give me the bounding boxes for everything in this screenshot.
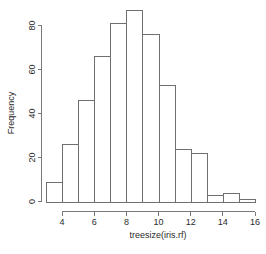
- histogram-bar: [207, 195, 223, 202]
- histogram-bar: [239, 200, 255, 202]
- x-tick-label: 4: [60, 217, 65, 227]
- histogram-plot: 0 20 40 60 80 Frequency 46810121416 tree…: [0, 0, 266, 254]
- x-tick-label: 14: [218, 217, 228, 227]
- x-axis-title: treesize(iris.rf): [129, 230, 186, 240]
- y-tick-label-80: 80: [27, 20, 37, 30]
- histogram-bar: [127, 11, 143, 202]
- x-tick-label: 16: [250, 217, 260, 227]
- histogram-bars: [47, 11, 256, 202]
- x-tick-label: 6: [92, 217, 97, 227]
- x-tick-label: 10: [153, 217, 163, 227]
- y-tick-label-40: 40: [27, 108, 37, 118]
- x-tick-label: 8: [124, 217, 129, 227]
- x-tick-label: 12: [186, 217, 196, 227]
- histogram-bar: [159, 85, 175, 202]
- histogram-bar: [223, 193, 239, 202]
- histogram-bar: [63, 145, 79, 202]
- histogram-bar: [143, 35, 159, 202]
- y-axis-title: Frequency: [6, 91, 16, 134]
- histogram-bar: [111, 24, 127, 202]
- x-axis-ticks: [62, 212, 255, 216]
- histogram-bar: [47, 182, 63, 202]
- histogram-svg: 0 20 40 60 80 Frequency 46810121416 tree…: [0, 0, 266, 254]
- histogram-bar: [191, 154, 207, 202]
- histogram-bar: [79, 101, 95, 202]
- y-tick-label-20: 20: [27, 152, 37, 162]
- y-tick-label-0: 0: [27, 199, 37, 204]
- y-tick-label-60: 60: [27, 64, 37, 74]
- y-axis-ticks: [38, 26, 42, 202]
- x-axis-tick-labels: 46810121416: [60, 217, 260, 227]
- y-axis-tick-labels: 0 20 40 60 80: [27, 20, 37, 204]
- histogram-bar: [95, 57, 111, 202]
- histogram-bar: [175, 149, 191, 202]
